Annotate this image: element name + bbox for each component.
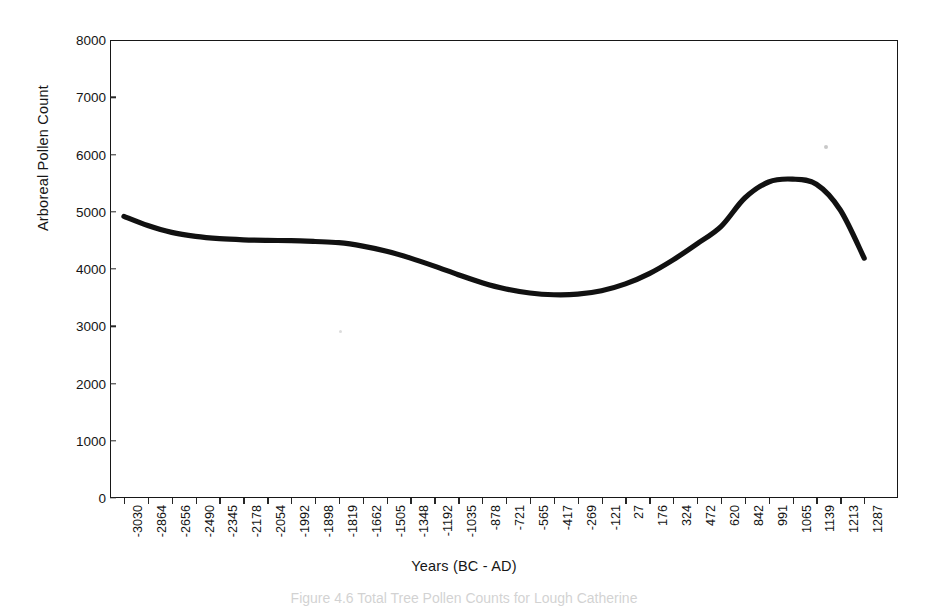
x-tick-label: -2864: [154, 504, 170, 558]
y-tick-label: 1000: [56, 433, 106, 448]
series-path: [124, 179, 864, 295]
y-tick-mark: [110, 440, 116, 441]
x-tick-label: -3030: [130, 504, 146, 558]
x-tick-label: 991: [775, 504, 791, 558]
x-tick-label: -2490: [202, 504, 218, 558]
x-tick-label: -721: [512, 504, 528, 558]
x-tick-label: -565: [536, 504, 552, 558]
x-tick-label: -1035: [464, 504, 480, 558]
x-tick-label: -2345: [225, 504, 241, 558]
x-tick-label: -269: [584, 504, 600, 558]
y-tick-mark: [110, 497, 116, 498]
x-tick-label: 324: [679, 504, 695, 558]
y-tick-label: 8000: [56, 33, 106, 48]
x-tick-label: 842: [751, 504, 767, 558]
x-tick-label: 472: [703, 504, 719, 558]
x-tick-label: 1139: [822, 504, 838, 558]
y-tick-label: 4000: [56, 262, 106, 277]
x-axis-title: Years (BC - AD): [0, 558, 928, 574]
x-tick-label: -1662: [369, 504, 385, 558]
y-tick-label: 3000: [56, 319, 106, 334]
scan-speckle: [824, 145, 828, 149]
x-tick-label: 27: [631, 504, 647, 558]
x-axis-tick-labels: -3030-2864-2656-2490-2345-2178-2054-1992…: [0, 504, 928, 558]
y-tick-mark: [110, 268, 116, 269]
x-tick-label: -2656: [178, 504, 194, 558]
x-tick-label: 620: [727, 504, 743, 558]
scan-speckle: [339, 330, 342, 333]
x-tick-label: 176: [655, 504, 671, 558]
x-tick-label: -2178: [249, 504, 265, 558]
y-tick-label: 2000: [56, 376, 106, 391]
x-tick-label: -1992: [297, 504, 313, 558]
x-tick-label: -1348: [416, 504, 432, 558]
x-tick-label: -2054: [273, 504, 289, 558]
x-tick-label: 1287: [870, 504, 886, 558]
x-tick-label: 1213: [846, 504, 862, 558]
x-tick-label: -878: [488, 504, 504, 558]
x-tick-label: -1505: [393, 504, 409, 558]
x-tick-label: -1898: [321, 504, 337, 558]
x-tick-label: -1192: [440, 504, 456, 558]
y-axis-tick-labels: 010002000300040005000600070008000: [50, 40, 106, 498]
y-tick-label: 7000: [56, 90, 106, 105]
y-tick-label: 6000: [56, 147, 106, 162]
pollen-count-line-series: [110, 40, 898, 498]
y-tick-mark: [110, 326, 116, 327]
x-tick-label: -1819: [345, 504, 361, 558]
x-tick-label: -417: [560, 504, 576, 558]
x-tick-label: -121: [608, 504, 624, 558]
figure-caption: Figure 4.6 Total Tree Pollen Counts for …: [0, 590, 928, 606]
y-tick-mark: [110, 154, 116, 155]
y-tick-mark: [110, 211, 116, 212]
y-tick-label: 5000: [56, 204, 106, 219]
y-tick-mark: [110, 383, 116, 384]
y-tick-mark: [110, 97, 116, 98]
x-tick-label: 1065: [799, 504, 815, 558]
y-axis-title: Arboreal Pollen Count: [35, 43, 51, 273]
